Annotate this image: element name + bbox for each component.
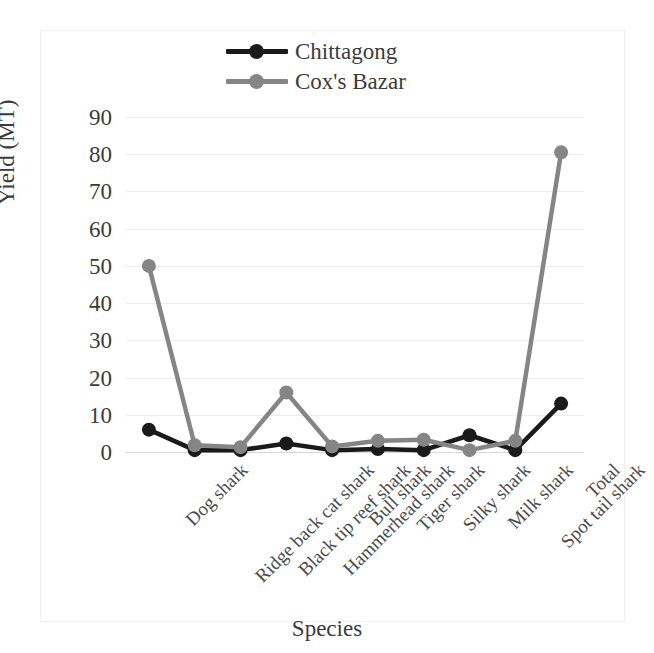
- gridline: [126, 415, 584, 416]
- gridline: [126, 266, 584, 267]
- y-axis-title: Yield (MT): [0, 100, 20, 205]
- legend-item-coxs-bazar: Cox's Bazar: [226, 66, 486, 96]
- y-tick-label: 70: [89, 180, 112, 203]
- legend-marker-line-icon: [226, 42, 288, 60]
- y-tick-label: 20: [89, 366, 112, 389]
- y-tick-label: 10: [89, 403, 112, 426]
- x-axis-title: Species: [0, 616, 654, 642]
- y-tick-label: 40: [89, 292, 112, 315]
- gridline: [126, 117, 584, 118]
- gridline: [126, 154, 584, 155]
- y-tick-label: 90: [89, 106, 112, 129]
- y-axis-ticks: 9080706050403020100: [42, 100, 120, 469]
- y-tick-label: 50: [89, 254, 112, 277]
- legend-dot-coxs-bazar: [249, 74, 264, 89]
- gridline: [126, 378, 584, 379]
- y-tick-label: 80: [89, 143, 112, 166]
- gridline: [126, 191, 584, 192]
- x-axis-labels: Dog sharkRidge back cat sharkBlack tip r…: [0, 452, 654, 602]
- gridline: [126, 303, 584, 304]
- chart-legend: Chittagong Cox's Bazar: [226, 36, 486, 96]
- gridline: [126, 229, 584, 230]
- legend-item-chittagong: Chittagong: [226, 36, 486, 66]
- gridline: [126, 340, 584, 341]
- legend-marker-line-icon: [226, 72, 288, 90]
- plot-area: [126, 117, 584, 452]
- legend-label-coxs-bazar: Cox's Bazar: [295, 70, 406, 93]
- y-tick-label: 30: [89, 329, 112, 352]
- legend-dot-chittagong: [249, 44, 264, 59]
- y-tick-label: 60: [89, 217, 112, 240]
- legend-label-chittagong: Chittagong: [295, 40, 397, 63]
- x-tick-label: Dog shark: [182, 460, 251, 529]
